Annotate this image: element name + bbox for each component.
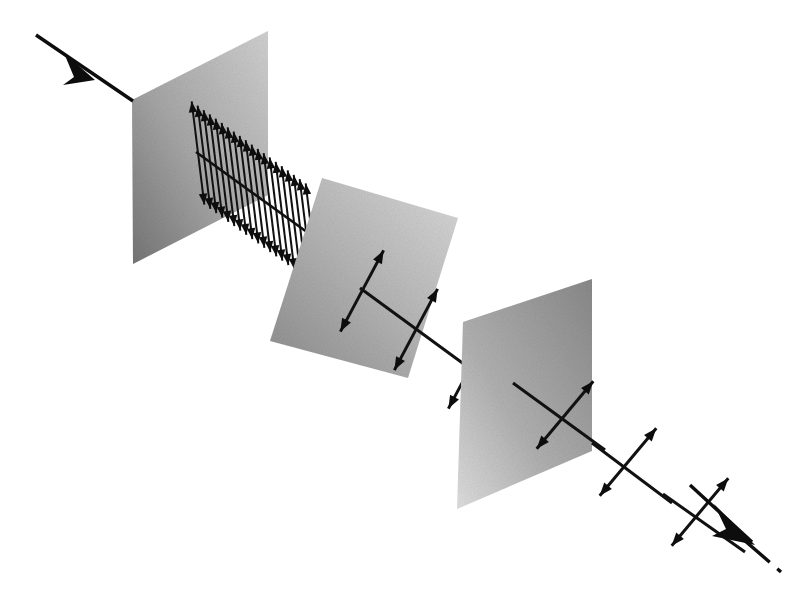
incoming-beam-arrowhead bbox=[63, 53, 95, 85]
polarizer-panel-3-surface bbox=[457, 279, 592, 509]
incoming-beam-arrow bbox=[36, 35, 133, 101]
polarization-arrowhead bbox=[448, 395, 459, 409]
polarizer-diagram-figure bbox=[0, 0, 800, 594]
incoming-beam-shaft bbox=[36, 35, 133, 101]
outgoing-beam-arrow bbox=[690, 485, 781, 572]
outgoing-beam-dashed-tail bbox=[744, 540, 781, 572]
polarization-arrow-shaft bbox=[592, 443, 672, 503]
outgoing-beam-arrowhead bbox=[712, 504, 755, 545]
diagram-canvas bbox=[0, 0, 800, 594]
polarizer-panel-3 bbox=[457, 279, 592, 509]
